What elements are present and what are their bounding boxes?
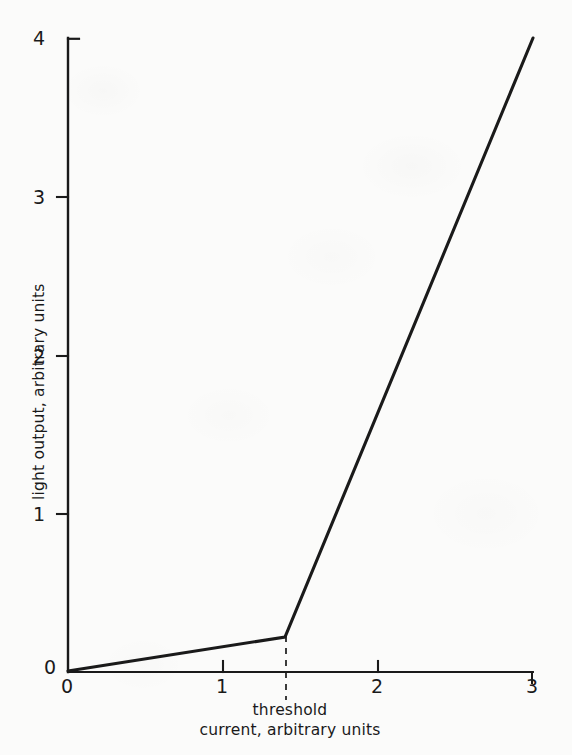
figure-canvas: 4 3 2 1 0 0 1 2 3 light output, arbitrar…	[0, 0, 572, 755]
x-tick-label-2: 2	[371, 675, 383, 697]
x-axis-ticks	[223, 661, 378, 672]
y-axis-ticks	[57, 197, 68, 514]
y-tick-label-4: 4	[33, 27, 45, 49]
y-tick-label-3: 3	[33, 186, 45, 208]
y-tick-label-0: 0	[44, 656, 56, 678]
plot-area	[0, 0, 572, 755]
y-axis-title: light output, arbitrary units	[30, 283, 48, 500]
light-output-curve	[68, 38, 533, 671]
x-axis-caption-block: threshold current, arbitrary units	[140, 700, 440, 741]
x-axis-title: current, arbitrary units	[140, 720, 440, 740]
x-tick-label-0: 0	[61, 675, 73, 697]
x-tick-label-3: 3	[526, 675, 538, 697]
y-tick-label-1: 1	[33, 503, 45, 525]
x-tick-label-1: 1	[216, 675, 228, 697]
threshold-annotation-label: threshold	[140, 700, 440, 720]
